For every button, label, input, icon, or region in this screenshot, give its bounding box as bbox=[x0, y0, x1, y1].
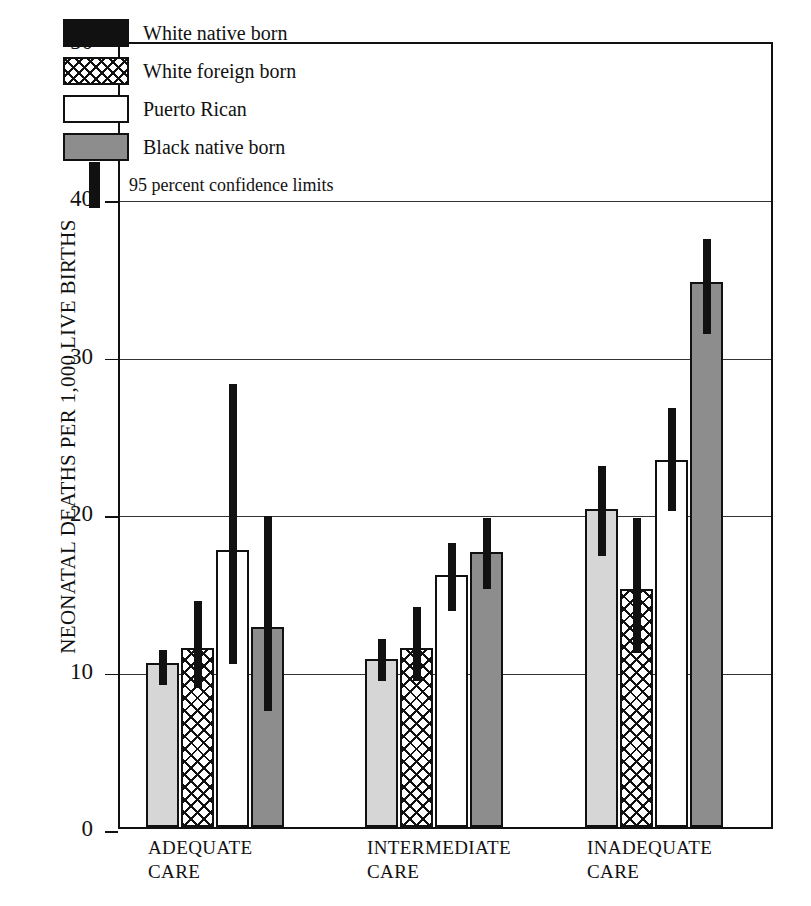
legend-swatch-white-icon bbox=[63, 95, 129, 123]
bar bbox=[655, 460, 688, 827]
legend-item-white-native-born: White native born bbox=[63, 14, 333, 52]
error-bar bbox=[483, 518, 491, 589]
error-bar bbox=[194, 601, 202, 688]
x-axis-category-label: INADEQUATECARE bbox=[587, 836, 712, 884]
x-axis-category-label: INTERMEDIATECARE bbox=[367, 836, 511, 884]
x-axis-category-label: ADEQUATECARE bbox=[148, 836, 253, 884]
legend-item-confidence-limits: 95 percent confidence limits bbox=[63, 166, 333, 204]
legend-label: White foreign born bbox=[143, 60, 296, 83]
y-axis-tick bbox=[105, 359, 118, 361]
error-bar bbox=[229, 384, 237, 664]
bar bbox=[585, 509, 618, 827]
y-axis-tick-label: 10 bbox=[33, 659, 93, 685]
y-axis-tick-label: 20 bbox=[33, 501, 93, 527]
x-axis-category-line: INADEQUATE bbox=[587, 836, 712, 860]
bar bbox=[435, 575, 468, 827]
error-bar bbox=[264, 516, 272, 711]
y-axis-tick-label: 0 bbox=[33, 816, 93, 842]
bar bbox=[470, 552, 503, 827]
bar bbox=[365, 659, 398, 827]
legend-swatch-gray-icon bbox=[63, 133, 129, 161]
legend-label: White native born bbox=[143, 22, 287, 45]
legend-label: 95 percent confidence limits bbox=[129, 175, 333, 196]
legend-item-black-native-born: Black native born bbox=[63, 128, 333, 166]
x-axis-category-labels: ADEQUATECAREINTERMEDIATECAREINADEQUATECA… bbox=[118, 836, 773, 902]
error-bar bbox=[633, 518, 641, 653]
error-bar bbox=[668, 408, 676, 512]
legend: White native born White foreign born Pue… bbox=[63, 14, 333, 204]
x-axis-category-line: ADEQUATE bbox=[148, 836, 253, 860]
y-axis-tick-label: 30 bbox=[33, 344, 93, 370]
legend-swatch-solid-black-icon bbox=[63, 19, 129, 47]
legend-label: Black native born bbox=[143, 136, 285, 159]
x-axis-category-line: CARE bbox=[148, 860, 253, 884]
error-bar bbox=[159, 650, 167, 685]
error-bar bbox=[413, 607, 421, 681]
legend-swatch-error-bar-icon bbox=[89, 162, 100, 208]
chart-figure: NEONATAL DEATHS PER 1,000 LIVE BIRTHS 01… bbox=[0, 0, 811, 906]
error-bar bbox=[598, 466, 606, 556]
x-axis-category-line: CARE bbox=[367, 860, 511, 884]
x-axis-category-line: INTERMEDIATE bbox=[367, 836, 511, 860]
x-axis-category-line: CARE bbox=[587, 860, 712, 884]
legend-item-white-foreign-born: White foreign born bbox=[63, 52, 333, 90]
y-axis-tick bbox=[105, 674, 118, 676]
legend-swatch-crosshatch-icon bbox=[63, 57, 129, 85]
error-bar bbox=[703, 239, 711, 333]
bar bbox=[146, 663, 179, 827]
y-axis-tick bbox=[105, 516, 118, 518]
y-axis-tick bbox=[105, 831, 118, 833]
error-bar bbox=[448, 543, 456, 611]
legend-label: Puerto Rican bbox=[143, 98, 247, 121]
bar bbox=[690, 282, 723, 827]
error-bar bbox=[378, 639, 386, 681]
legend-item-puerto-rican: Puerto Rican bbox=[63, 90, 333, 128]
